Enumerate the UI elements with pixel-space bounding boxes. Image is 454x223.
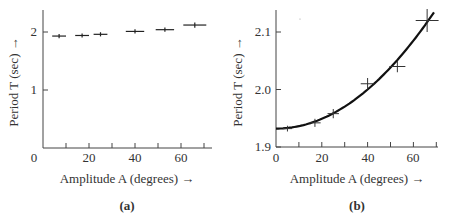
chart-a-caption: (a) bbox=[119, 198, 134, 213]
chart-a-ytick-2: 2 bbox=[31, 24, 38, 39]
chart-b-ytick-2.0: 2.0 bbox=[255, 82, 271, 97]
chart-b-ytick-2.1: 2.1 bbox=[255, 24, 271, 39]
chart-a-axes bbox=[43, 10, 212, 148]
chart-a-xtick-40: 40 bbox=[129, 150, 142, 165]
chart-a-xtick-0: 0 bbox=[31, 150, 38, 165]
chart-b: 1.9 2.0 2.1 0 20 40 60 Amplitude A (degr… bbox=[230, 9, 439, 213]
chart-a: 1 2 0 20 40 60 Amplitude A (degrees) → P… bbox=[6, 10, 212, 213]
chart-b-x-ticks bbox=[299, 142, 436, 147]
chart-a-y-axis-title: Period T (sec) → bbox=[6, 37, 21, 126]
chart-a-ytick-1: 1 bbox=[31, 82, 38, 97]
chart-b-y-ticks bbox=[276, 32, 281, 147]
chart-b-caption: (b) bbox=[349, 198, 365, 213]
chart-b-data-points bbox=[283, 9, 439, 131]
chart-a-x-axis-title: Amplitude A (degrees) → bbox=[60, 171, 195, 186]
chart-a-xtick-20: 20 bbox=[83, 150, 96, 165]
chart-a-xtick-60: 60 bbox=[175, 150, 188, 165]
chart-b-xtick-0: 0 bbox=[273, 150, 280, 165]
chart-b-x-axis-title: Amplitude A (degrees) → bbox=[290, 171, 425, 186]
chart-a-y-ticks bbox=[43, 32, 48, 90]
chart-b-xtick-20: 20 bbox=[316, 150, 329, 165]
speck bbox=[299, 18, 300, 19]
chart-b-y-axis-title: Period T (sec) → bbox=[230, 37, 245, 126]
chart-b-xtick-40: 40 bbox=[362, 150, 375, 165]
chart-b-xtick-60: 60 bbox=[407, 150, 420, 165]
chart-a-x-ticks bbox=[66, 143, 204, 148]
chart-b-ytick-1.9: 1.9 bbox=[255, 139, 271, 154]
figure: 1 2 0 20 40 60 Amplitude A (degrees) → P… bbox=[0, 0, 454, 223]
chart-a-data-points bbox=[52, 22, 206, 38]
chart-b-fit-curve bbox=[276, 12, 434, 128]
